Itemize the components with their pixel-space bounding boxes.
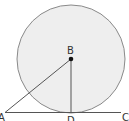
label-d: D: [67, 115, 75, 121]
label-c: C: [122, 112, 129, 121]
label-b: B: [67, 45, 74, 56]
geometry-diagram: B A D C: [0, 0, 129, 121]
point-b-dot: [69, 57, 74, 62]
label-a: A: [0, 112, 5, 121]
